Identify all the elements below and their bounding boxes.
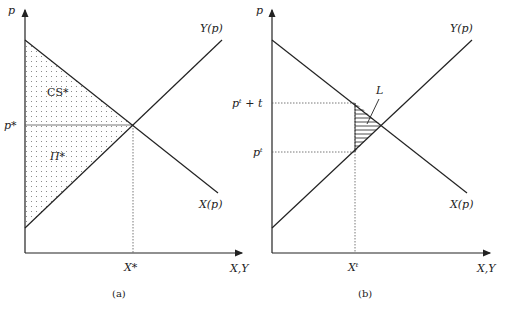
diagram-canvas: p X,Y Y(p) X(p) p* X* CS* Π* (a) (0, 0, 505, 313)
panel-a: p X,Y Y(p) X(p) p* X* CS* Π* (a) (4, 4, 250, 299)
upper-price-label: pᵗ + t (232, 97, 263, 110)
consumer-surplus-label: CS* (47, 86, 69, 99)
demand-label: X(p) (449, 198, 473, 211)
price-label: p* (4, 119, 17, 132)
supply-label: Y(p) (450, 22, 473, 35)
supply-label: Y(p) (200, 22, 223, 35)
x-axis-label: X,Y (229, 262, 250, 275)
panel-a-caption: (a) (112, 288, 126, 299)
producer-surplus-label: Π* (49, 150, 66, 163)
figure: p X,Y Y(p) X(p) p* X* CS* Π* (a) (0, 0, 505, 313)
loss-pointer (367, 99, 379, 124)
x-axis-label: X,Y (476, 262, 497, 275)
deadweight-loss-region (355, 106, 385, 150)
loss-label: L (375, 84, 383, 97)
quantity-label: X* (123, 261, 138, 274)
tax-quantity-label: Xᵗ (347, 261, 359, 274)
y-axis-label: p (256, 4, 263, 17)
demand-label: X(p) (198, 198, 222, 211)
demand-curve (272, 40, 467, 193)
lower-price-label: pᵗ (253, 146, 263, 159)
panel-b-caption: (b) (358, 288, 372, 299)
supply-curve (272, 40, 472, 228)
panel-b: p X,Y Y(p) X(p) pᵗ + t pᵗ Xᵗ L (b) (232, 4, 497, 299)
y-axis-label: p (8, 4, 15, 17)
